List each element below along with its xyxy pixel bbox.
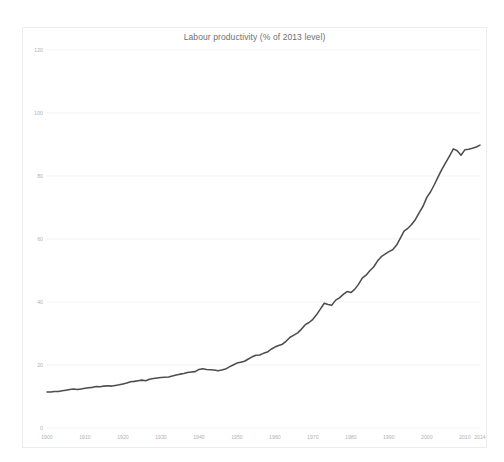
y-tick-label: 80 <box>37 173 43 179</box>
x-tick-label: 1920 <box>117 434 129 440</box>
y-tick-label: 20 <box>37 362 43 368</box>
x-tick-label: 1900 <box>41 434 53 440</box>
x-tick-label: 1910 <box>79 434 91 440</box>
x-tick-label: 1960 <box>269 434 281 440</box>
x-tick-label: 2010 <box>459 434 471 440</box>
x-axis-ticks: 1900191019201930194019501960197019801990… <box>41 434 486 440</box>
gridlines <box>47 50 480 428</box>
x-tick-label: 1940 <box>193 434 205 440</box>
x-tick-label: 1980 <box>345 434 357 440</box>
x-tick-label: 2014 <box>474 434 486 440</box>
y-axis-ticks: 020406080100120 <box>34 47 43 431</box>
x-tick-label: 2000 <box>421 434 433 440</box>
y-tick-label: 120 <box>34 47 43 53</box>
x-tick-label: 1950 <box>231 434 243 440</box>
x-tick-label: 1970 <box>307 434 319 440</box>
chart-card: Labour productivity (% of 2013 level) 02… <box>22 27 487 448</box>
line-chart-svg: 020406080100120 190019101920193019401950… <box>23 28 488 449</box>
y-tick-label: 40 <box>37 299 43 305</box>
plot-area: 020406080100120 190019101920193019401950… <box>23 28 488 449</box>
x-tick-label: 1990 <box>383 434 395 440</box>
x-tick-label: 1930 <box>155 434 167 440</box>
y-tick-label: 0 <box>40 425 43 431</box>
y-tick-label: 60 <box>37 236 43 242</box>
series-line-labour-productivity <box>47 145 480 392</box>
y-tick-label: 100 <box>34 110 43 116</box>
